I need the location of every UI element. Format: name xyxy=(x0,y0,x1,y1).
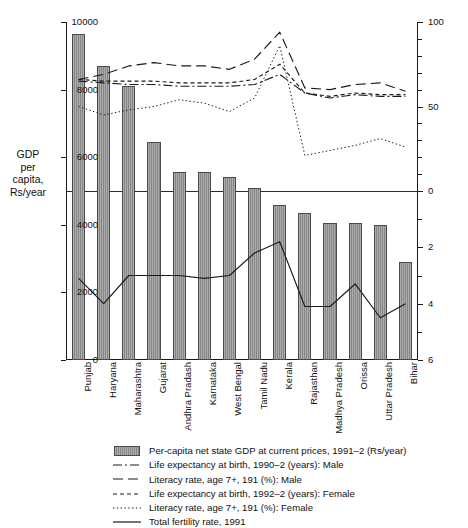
y-axis-title-line-2: per xyxy=(2,161,54,174)
x-axis-category-label: Punjab xyxy=(83,362,93,392)
right-axis-ticks: 100500246 xyxy=(428,22,468,360)
right-axis-tick xyxy=(418,90,422,91)
right-axis-tick xyxy=(418,360,423,361)
left-axis-tick-label: 10000 xyxy=(72,17,98,27)
series-line-dash-dot xyxy=(79,74,406,98)
legend-key-dotted-line xyxy=(112,502,142,514)
legend-key-solid-line xyxy=(112,516,142,528)
x-axis-category-label: Gujarat xyxy=(158,362,168,393)
series-line-solid xyxy=(79,242,406,318)
right-axis-tick xyxy=(418,247,423,248)
left-axis-tick-label: 4000 xyxy=(77,220,98,230)
x-axis-category-label: Uttar Pradesh xyxy=(384,362,394,421)
right-axis-tick xyxy=(418,56,422,57)
right-axis-tick xyxy=(418,174,422,175)
left-axis-tick-label: 6000 xyxy=(77,152,98,162)
right-axis-tick xyxy=(418,276,422,277)
left-axis-tick xyxy=(61,157,66,158)
left-axis-tick-label: 2000 xyxy=(77,287,98,297)
chart-legend: Per-capita net state GDP at current pric… xyxy=(112,444,462,528)
legend-item-label: Per-capita net state GDP at current pric… xyxy=(149,446,406,456)
right-axis-tick xyxy=(418,107,423,108)
right-axis-tick xyxy=(418,304,423,305)
x-axis-category-label: Kerala xyxy=(284,362,294,389)
legend-key-long-dash-line xyxy=(112,473,142,485)
legend-item: Life expectancy at birth, 1992–2 (years)… xyxy=(112,487,462,501)
left-axis-tick xyxy=(61,292,66,293)
x-axis-category-label: Orissa xyxy=(359,362,369,389)
left-axis-ticks: 1000080006000400020000 xyxy=(54,22,98,360)
legend-item-label: Life expectancy at birth, 1990–2 (years)… xyxy=(149,460,344,470)
right-axis-tick-label: 100 xyxy=(428,17,444,27)
x-axis-category-label: Haryana xyxy=(108,362,118,398)
legend-item: Total fertility rate, 1991 xyxy=(112,515,462,528)
x-axis-category-label: Karnataka xyxy=(208,362,218,405)
x-axis-category-label: Tamil Nadu xyxy=(259,362,269,410)
right-axis-tick xyxy=(418,157,422,158)
x-axis-category-label: Rajasthan xyxy=(309,362,319,405)
left-axis-tick xyxy=(61,225,66,226)
y-axis-title-line-1: GDP xyxy=(2,148,54,161)
line-series-group xyxy=(66,22,418,360)
legend-item: Literacy rate, age 7+, 191 (%): Male xyxy=(112,472,462,486)
right-axis-tick-label: 4 xyxy=(428,299,433,309)
right-axis-tick xyxy=(418,22,423,23)
right-axis-tick xyxy=(418,332,422,333)
series-line-long-dash xyxy=(79,32,406,91)
x-axis-category-label: Andhra Pradash xyxy=(183,362,193,431)
left-axis-tick xyxy=(61,90,66,91)
right-axis-tick-label: 0 xyxy=(428,186,433,196)
legend-item-label: Literacy rate, age 7+, 191 (%): Male xyxy=(149,475,302,485)
legend-item: Per-capita net state GDP at current pric… xyxy=(112,444,462,458)
legend-key-dash-dot-line xyxy=(112,459,142,471)
right-axis-tick xyxy=(418,191,423,192)
chart-figure: GDP per capita, Rs/year 1000080006000400… xyxy=(0,0,468,528)
legend-item-label: Literacy rate, age 7+, 191 (%): Female xyxy=(149,503,313,513)
line-series-svg xyxy=(66,22,418,360)
legend-item: Life expectancy at birth, 1990–2 (years)… xyxy=(112,458,462,472)
left-axis-tick-label: 8000 xyxy=(77,85,98,95)
right-axis-tick xyxy=(418,140,422,141)
legend-key-short-dash-line xyxy=(112,488,142,500)
right-axis-tick-label: 50 xyxy=(428,102,439,112)
x-axis-category-label: Maharashtra xyxy=(133,362,143,415)
plot-area: 1000080006000400020000 100500246 xyxy=(66,22,418,360)
legend-item-label: Life expectancy at birth, 1992–2 (years)… xyxy=(149,489,355,499)
right-axis-tick xyxy=(418,219,422,220)
x-axis-category-labels: PunjabHaryanaMaharashtraGujaratAndhra Pr… xyxy=(66,362,418,438)
series-line-short-dash xyxy=(79,64,406,96)
right-axis-tick xyxy=(418,73,422,74)
right-axis-tick xyxy=(418,39,422,40)
right-axis-tick-label: 2 xyxy=(428,242,433,252)
x-axis-category-label: Madhya Pradesh xyxy=(334,362,344,434)
x-axis-category-label: Bihar xyxy=(409,362,419,384)
y-axis-title-line-4: Rs/year xyxy=(2,186,54,199)
series-line-dotted xyxy=(79,46,406,156)
legend-item: Literacy rate, age 7+, 191 (%): Female xyxy=(112,501,462,515)
legend-bar-swatch xyxy=(114,446,140,456)
right-axis-tick-label: 6 xyxy=(428,355,433,365)
x-axis-category-label: West Bengal xyxy=(233,362,243,416)
y-axis-title: GDP per capita, Rs/year xyxy=(2,148,54,198)
legend-item-label: Total fertility rate, 1991 xyxy=(149,517,246,527)
y-axis-title-line-3: capita, xyxy=(2,173,54,186)
legend-key-bar-swatch xyxy=(112,445,142,457)
left-axis-tick xyxy=(61,360,66,361)
left-axis-tick xyxy=(61,22,66,23)
right-axis-tick xyxy=(418,123,422,124)
